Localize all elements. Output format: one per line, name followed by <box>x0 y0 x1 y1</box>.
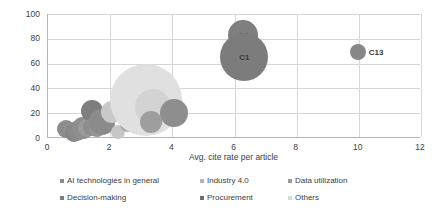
bubble-chart: 020406080100024681012 C4C1C13 Avg. cites… <box>0 0 437 216</box>
legend-item[interactable]: Industry 4.0 <box>200 176 249 186</box>
legend-swatch-icon <box>288 196 292 200</box>
legend-label: Data utilization <box>295 176 347 186</box>
legend-swatch-icon <box>288 179 292 183</box>
legend-item[interactable]: Procurement <box>200 193 253 203</box>
x-axis-title: Avg. cite rate per article <box>47 152 420 162</box>
legend-label: Decision-making <box>67 193 126 203</box>
legend-swatch-icon <box>60 196 64 200</box>
legend-swatch-icon <box>200 179 204 183</box>
legend-item[interactable]: AI technologies in general <box>60 176 159 186</box>
data-point-label: C13 <box>369 48 384 57</box>
legend-item[interactable]: Data utilization <box>288 176 347 186</box>
legend-swatch-icon <box>200 196 204 200</box>
data-point-bubble <box>220 33 268 81</box>
data-point-bubble <box>140 111 162 133</box>
legend-swatch-icon <box>60 179 64 183</box>
legend-label: Procurement <box>207 193 253 203</box>
legend-label: Others <box>295 193 319 203</box>
legend-item[interactable]: Others <box>288 193 319 203</box>
legend-item[interactable]: Decision-making <box>60 193 126 203</box>
data-point-bubble <box>350 44 366 60</box>
chart-legend: AI technologies in generalIndustry 4.0Da… <box>60 176 390 210</box>
legend-label: Industry 4.0 <box>207 176 249 186</box>
data-point-bubble <box>160 99 188 127</box>
legend-label: AI technologies in general <box>67 176 159 186</box>
